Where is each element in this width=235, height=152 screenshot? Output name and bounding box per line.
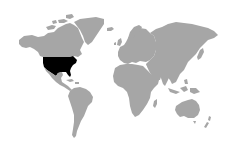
region-tasmania (193, 121, 196, 124)
world-map-svg (0, 0, 235, 152)
region-british-isles (114, 38, 122, 46)
region-new-zealand (204, 116, 211, 128)
world-map (0, 0, 235, 152)
region-caribbean (66, 79, 79, 84)
region-iceland (107, 27, 114, 31)
region-india (160, 72, 170, 86)
region-madagascar (153, 99, 157, 108)
region-europe (118, 28, 156, 64)
region-south-america (68, 87, 93, 138)
region-australia (175, 99, 200, 118)
